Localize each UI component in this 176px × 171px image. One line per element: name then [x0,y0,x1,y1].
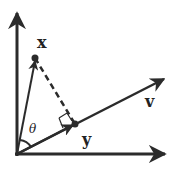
v-label: v [145,94,154,110]
right-angle-marker-base [59,118,63,128]
perpendicular-dashed-line [35,58,75,124]
projection-diagram: x v y θ [0,0,176,171]
y-label: y [82,132,91,148]
y-vector-arrow [17,125,73,154]
theta-label: θ [29,123,36,135]
theta-angle-arc [20,140,31,147]
x-point-dot [32,55,39,62]
x-vector-arrow [17,61,35,154]
projection-point-dot [72,121,79,128]
x-label: x [37,35,47,51]
right-angle-marker [59,113,72,121]
